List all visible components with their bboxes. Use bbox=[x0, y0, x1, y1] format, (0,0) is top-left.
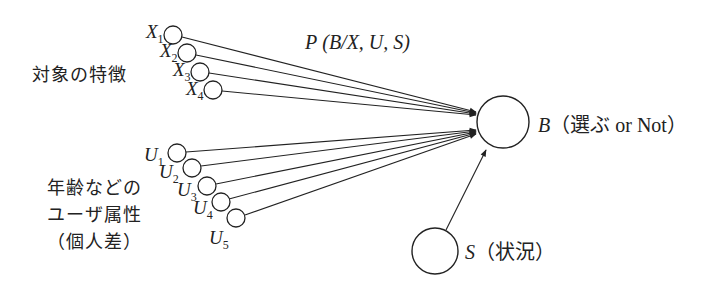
probability-formula: P (B/X, U, S) bbox=[305, 32, 410, 52]
formula-prefix: P bbox=[305, 31, 317, 53]
u4-label: U4 bbox=[193, 198, 213, 221]
u5-label: U5 bbox=[209, 228, 229, 251]
bayesian-network-diagram: P (B/X, U, S) 対象の特徴 X1 X2 X3 X4 年齢などの ユー… bbox=[0, 0, 704, 284]
s-symbol: S bbox=[465, 241, 475, 263]
edge-s-b bbox=[446, 150, 486, 230]
user-attributes-line-1: 年齢などの bbox=[47, 174, 142, 201]
user-attributes-label: 年齢などの ユーザ属性 （個人差） bbox=[47, 174, 142, 255]
formula-args: (B/X, U, S) bbox=[322, 31, 410, 53]
x4-label: X4 bbox=[186, 79, 204, 102]
s-description: （状況） bbox=[475, 241, 555, 263]
edge-x2-b bbox=[196, 55, 476, 113]
b-description: （選ぶ or Not） bbox=[550, 114, 687, 136]
node-u2 bbox=[183, 159, 201, 177]
user-attributes-line-3: （個人差） bbox=[47, 228, 142, 255]
node-u5 bbox=[227, 209, 245, 227]
b-symbol: B bbox=[538, 114, 550, 136]
node-u1 bbox=[168, 144, 186, 162]
node-s bbox=[412, 228, 458, 274]
edge-u4-b bbox=[229, 133, 476, 199]
node-u4 bbox=[212, 193, 230, 211]
node-u3 bbox=[198, 177, 216, 195]
u2-label: U2 bbox=[159, 162, 179, 185]
b-node-label: B（選ぶ or Not） bbox=[538, 115, 687, 135]
node-b bbox=[477, 96, 529, 148]
object-features-label: 対象の特徴 bbox=[32, 66, 127, 84]
user-attributes-line-2: ユーザ属性 bbox=[47, 201, 142, 228]
s-node-label: S（状況） bbox=[465, 242, 555, 262]
node-x4 bbox=[204, 81, 222, 99]
